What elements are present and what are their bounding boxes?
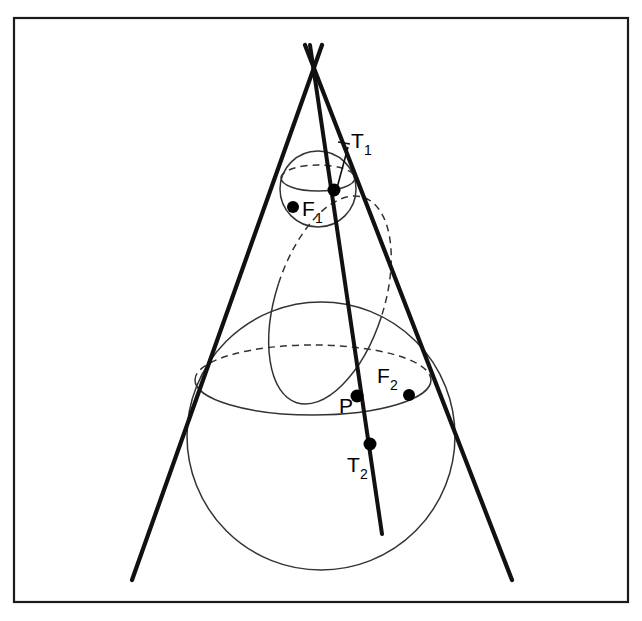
- dandelin-spheres-diagram: T 1 F 1 F 2 P T 2: [0, 0, 642, 621]
- point-F1-marker: [287, 201, 299, 213]
- label-T2: T: [347, 453, 360, 476]
- label-F1-subscript: 1: [315, 210, 323, 226]
- label-F2-subscript: 2: [390, 377, 398, 393]
- figure-border: [14, 18, 628, 602]
- point-T1-marker: [328, 184, 341, 197]
- label-T1-subscript: 1: [364, 142, 372, 158]
- label-F2: F: [377, 364, 390, 387]
- label-P: P: [339, 394, 353, 417]
- point-F2-marker: [403, 389, 415, 401]
- figure-root: T 1 F 1 F 2 P T 2: [0, 0, 642, 621]
- label-T1: T: [351, 129, 364, 152]
- label-F1: F: [302, 197, 315, 220]
- label-T2-subscript: 2: [360, 466, 368, 482]
- point-T2-marker: [364, 438, 377, 451]
